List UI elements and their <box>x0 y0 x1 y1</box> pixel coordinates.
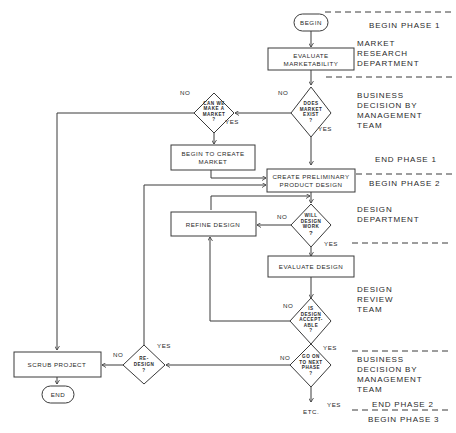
node-label-line1: GO ON <box>302 354 320 359</box>
node-begin[interactable]: BEGIN <box>294 14 328 31</box>
node-label-line3: ? <box>142 368 145 373</box>
node-label-line2: MARKETABILITY <box>284 60 339 67</box>
node-label-line4: ? <box>309 118 312 123</box>
node-can-we-make-market[interactable]: CAN WE MAKE A MARKET ? <box>194 93 234 133</box>
label-market-research-line3: DEPARTMENT <box>357 59 419 68</box>
node-end[interactable]: END <box>42 386 74 403</box>
node-scrub-project[interactable]: SCRUB PROJECT <box>14 352 101 377</box>
node-label-line5: ? <box>309 328 312 333</box>
node-label-line2: DESIGN <box>301 219 322 224</box>
label-begin-phase-2: BEGIN PHASE 2 <box>369 179 440 188</box>
label-yes-go-on: YES <box>327 401 341 408</box>
node-label-line2: MARKET <box>199 158 228 165</box>
label-business-decision-1-line2: DECISION BY <box>357 101 417 110</box>
node-label-line2: MAKE A <box>204 106 225 111</box>
node-label-line1: CAN WE <box>203 101 225 106</box>
node-label-line3: MARKET <box>203 112 226 117</box>
label-design-review-line3: TEAM <box>357 305 382 314</box>
label-business-decision-2-line1: BUSINESS <box>357 355 404 364</box>
node-label-line1: IS <box>308 306 313 311</box>
node-evaluate-design[interactable]: EVALUATE DESIGN <box>268 256 354 277</box>
node-begin-to-create-market[interactable]: BEGIN TO CREATE MARKET <box>171 145 255 170</box>
label-end-phase-2: END PHASE 2 <box>372 400 434 409</box>
etc-label: ETC. <box>303 408 319 415</box>
label-design-review-line1: DESIGN <box>357 285 392 294</box>
label-yes-redesign: YES <box>157 342 171 349</box>
label-no-acceptable: NO <box>283 302 293 309</box>
node-label-line3: WORK <box>303 224 320 229</box>
label-begin-phase-3: BEGIN PHASE 3 <box>368 415 439 424</box>
node-label-line2: MARKET <box>300 107 323 112</box>
node-label-line1: BEGIN TO CREATE <box>181 150 244 157</box>
node-label-line4: ABLE <box>304 323 319 328</box>
label-yes-will-work: YES <box>324 240 338 247</box>
edge-create-market-to-prelim <box>211 170 266 178</box>
node-label-line1: WILL <box>304 213 317 218</box>
node-label-line3: EXIST <box>303 112 319 117</box>
node-refine-design[interactable]: REFINE DESIGN <box>171 212 256 236</box>
label-end-phase-1: END PHASE 1 <box>375 155 437 164</box>
label-no-will-work: NO <box>277 213 287 220</box>
node-label: BEGIN <box>300 19 322 26</box>
node-label-line2: TO NEXT <box>299 360 322 365</box>
node-label-line4: ? <box>309 371 312 376</box>
edge-refine-loop <box>211 196 310 210</box>
node-label: REFINE DESIGN <box>186 221 241 228</box>
label-design-department-line1: DESIGN <box>357 205 392 214</box>
node-label-line3: ACCEPT- <box>299 317 323 322</box>
side-labels: BEGIN PHASE 1 MARKET RESEARCH DEPARTMENT… <box>357 21 440 424</box>
label-business-decision-1-line1: BUSINESS <box>357 91 404 100</box>
label-no-redesign: NO <box>113 351 123 358</box>
node-redesign[interactable]: RE- DESIGN ? <box>123 345 165 384</box>
label-no-can-make: NO <box>180 89 190 96</box>
node-label: SCRUB PROJECT <box>28 361 87 368</box>
node-label-line1: DOES <box>303 101 318 106</box>
label-yes-can-make: YES <box>225 118 239 125</box>
flowchart-svg: BEGIN EVALUATE MARKETABILITY DOES MARKET… <box>0 0 456 433</box>
node-label: END <box>51 391 66 398</box>
label-no-exist: NO <box>278 89 288 96</box>
node-is-design-acceptable[interactable]: IS DESIGN ACCEPT- ABLE ? <box>290 298 331 344</box>
flowchart-canvas: BEGIN EVALUATE MARKETABILITY DOES MARKET… <box>0 0 456 433</box>
label-business-decision-1-line3: MANAGEMENT <box>357 111 422 120</box>
edge-acceptable-no <box>210 237 290 321</box>
label-yes-acceptable: YES <box>323 344 337 351</box>
node-label-line4: ? <box>309 230 313 236</box>
node-label-line2: DESIGN <box>134 362 155 367</box>
label-yes-exist: YES <box>318 125 332 132</box>
node-label-line2: PRODUCT DESIGN <box>280 181 343 188</box>
label-business-decision-2-line2: DECISION BY <box>357 365 417 374</box>
label-market-research-line1: MARKET <box>357 39 395 48</box>
node-label-line3: PHASE <box>302 365 320 370</box>
node-label-line1: CREATE PRELIMINARY <box>272 173 349 180</box>
label-design-review-line2: REVIEW <box>357 295 393 304</box>
label-business-decision-2-line3: MANAGEMENT <box>357 375 422 384</box>
label-market-research-line2: RESEARCH <box>357 49 408 58</box>
label-begin-phase-1: BEGIN PHASE 1 <box>369 21 440 30</box>
node-label-line1: EVALUATE <box>293 52 328 59</box>
node-evaluate-marketability[interactable]: EVALUATE MARKETABILITY <box>268 48 354 70</box>
label-no-go-on: NO <box>280 354 290 361</box>
node-label-line2: DESIGN <box>301 312 322 317</box>
node-create-preliminary-design[interactable]: CREATE PRELIMINARY PRODUCT DESIGN <box>267 169 355 192</box>
edge-redesign-yes <box>144 185 266 350</box>
label-business-decision-2-line4: TEAM <box>357 385 382 394</box>
node-label: EVALUATE DESIGN <box>279 263 343 270</box>
label-design-department-line2: DEPARTMENT <box>357 215 419 224</box>
label-business-decision-1-line4: TEAM <box>357 121 382 130</box>
node-label-line4: ? <box>212 117 215 122</box>
node-label-line1: RE- <box>139 356 148 361</box>
